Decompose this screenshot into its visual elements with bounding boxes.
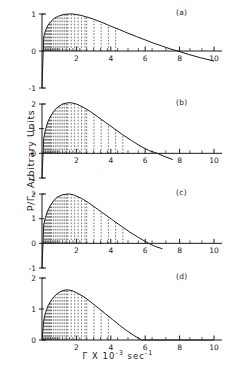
panel-svg-b: -1012246810 (28, 98, 228, 194)
x-tick-label: 8 (177, 246, 182, 255)
chart-panel-d: 012246810(d) (28, 272, 228, 356)
panel-svg-c: -1012246810 (28, 188, 228, 284)
y-tick-label: 2 (31, 274, 36, 283)
x-tick-label: 6 (143, 156, 148, 165)
x-tick-label: 10 (209, 246, 219, 255)
y-tick-label: 1 (31, 305, 36, 314)
x-tick-label: 4 (108, 156, 113, 165)
hatch-fill (44, 14, 116, 51)
data-curve (42, 194, 162, 268)
y-tick-label: 0 (31, 336, 36, 345)
y-tick-label: 1 (31, 124, 36, 133)
x-tick-label: 2 (74, 156, 79, 165)
x-tick-label: 8 (177, 54, 182, 63)
panel-svg-d: 012246810 (28, 272, 228, 356)
hatch-fill (44, 103, 123, 154)
y-tick-label: -1 (29, 174, 37, 183)
y-tick-label: 2 (31, 100, 36, 109)
panel-label-d: (d) (176, 272, 188, 281)
y-tick-label: -1 (29, 84, 37, 93)
y-tick-label: 2 (31, 190, 36, 199)
y-tick-label: 0 (31, 149, 36, 158)
x-tick-label: 4 (108, 54, 113, 63)
hatch-fill (43, 290, 108, 340)
chart-panel-b: -1012246810(b) (28, 98, 228, 194)
panel-label-c: (c) (176, 188, 187, 197)
figure-panel-plot: P/Γ, Arbitrary Units Γ X 10-3 sec-1 -101… (0, 0, 236, 371)
x-tick-label: 6 (143, 246, 148, 255)
x-tick-label: 6 (143, 54, 148, 63)
x-tick-label: 6 (143, 343, 148, 352)
x-tick-label: 10 (209, 343, 219, 352)
x-tick-label: 10 (209, 156, 219, 165)
data-curve (42, 103, 173, 178)
x-tick-label: 4 (108, 343, 113, 352)
panel-label-b: (b) (176, 98, 188, 107)
y-tick-label: 1 (31, 10, 36, 19)
x-tick-label: 2 (74, 246, 79, 255)
panel-label-a: (a) (176, 8, 187, 17)
x-tick-label: 10 (209, 54, 219, 63)
x-tick-label: 4 (108, 246, 113, 255)
chart-panel-c: -1012246810(c) (28, 188, 228, 284)
x-tick-label: 2 (74, 54, 79, 63)
y-tick-label: 0 (31, 47, 36, 56)
y-tick-label: 1 (31, 214, 36, 223)
x-tick-label: 2 (74, 343, 79, 352)
x-tick-label: 8 (177, 343, 182, 352)
y-tick-label: 0 (31, 239, 36, 248)
chart-panel-a: -101246810(a) (28, 8, 228, 104)
x-tick-label: 8 (177, 156, 182, 165)
panel-svg-a: -101246810 (28, 8, 228, 104)
